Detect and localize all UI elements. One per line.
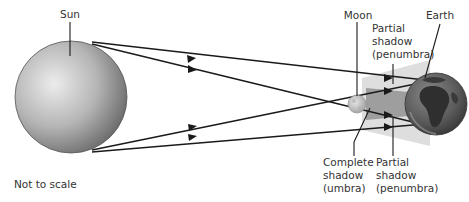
penumbra-bottom-label-line2: shadow: [376, 169, 417, 181]
penumbra-top-label-line2: shadow: [372, 35, 413, 47]
penumbra-bottom-label-line3: (penumbra): [376, 182, 438, 194]
arrowhead: [187, 55, 196, 63]
umbra-label-line3: (umbra): [323, 182, 366, 194]
sun-label: Sun: [60, 8, 80, 20]
penumbra-bottom-label-line1: Partial: [376, 156, 409, 168]
moon-crater: [358, 106, 361, 109]
not-to-scale-note: Not to scale: [14, 178, 77, 190]
umbra-label-line2: shadow: [323, 169, 364, 181]
moon-label: Moon: [344, 9, 373, 21]
solar-eclipse-diagram: Sun Moon Earth Partial shadow (penumbra)…: [0, 0, 469, 202]
penumbra-top-label-line3: (penumbra): [372, 48, 434, 60]
moon: [348, 95, 366, 113]
moon-crater: [352, 99, 356, 103]
earth-label: Earth: [426, 9, 454, 21]
ray-bottom-outer: [92, 124, 425, 152]
umbra-label-line1: Complete: [323, 156, 374, 168]
arrowhead: [188, 134, 197, 141]
penumbra-top-label-line1: Partial: [372, 22, 405, 34]
sun: [15, 41, 127, 153]
